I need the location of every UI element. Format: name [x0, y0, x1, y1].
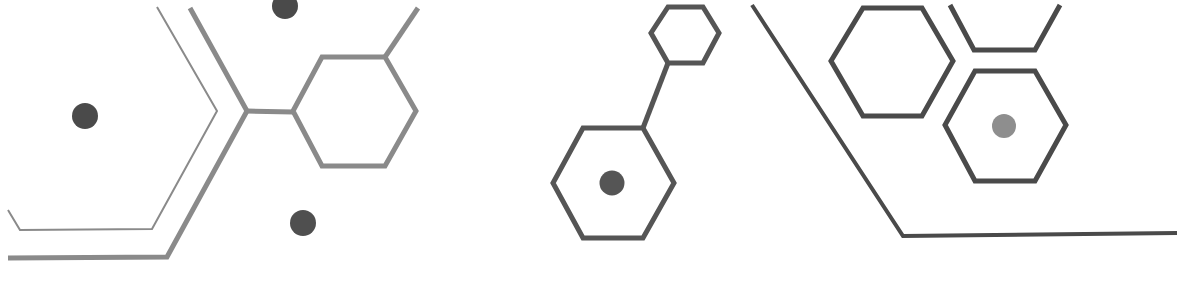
dot: [290, 210, 316, 236]
hexagon-outline: [831, 8, 953, 116]
thick-outline-line: [8, 8, 247, 258]
dot: [72, 103, 98, 129]
hexagon-pattern-svg: [0, 0, 1179, 286]
dot: [992, 114, 1016, 138]
hexagon-pattern-graphic: [0, 0, 1179, 286]
connector-line: [643, 63, 668, 128]
frame-line: [752, 5, 1177, 236]
hexagon-outline-partial: [950, 5, 1060, 50]
dot: [272, 0, 298, 19]
hexagon-outline-small: [651, 7, 719, 63]
connector-line: [385, 8, 418, 57]
connector-line: [247, 111, 293, 112]
thin-outline-line: [8, 7, 217, 230]
dot: [600, 171, 625, 196]
hexagon-outline: [293, 57, 416, 166]
